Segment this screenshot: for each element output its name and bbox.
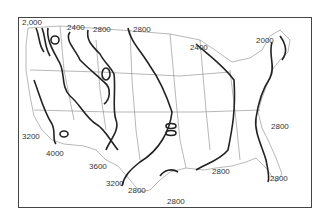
contour-label: 2000 (256, 37, 274, 45)
contour-label: 2800 (167, 198, 185, 206)
contour-label: 2,000 (22, 19, 42, 27)
us-contour-map (0, 0, 321, 220)
contour-label: 2800 (212, 168, 230, 176)
contour-label: 2800 (133, 26, 151, 34)
contour-label: 2800 (128, 187, 146, 195)
contour-label: 3600 (89, 163, 107, 171)
contour-label: 2400 (190, 44, 208, 52)
contour-lines (34, 28, 286, 186)
contour-label: 2400 (67, 24, 85, 32)
contour-label: 2800 (93, 26, 111, 34)
state-boundaries (26, 26, 290, 192)
contour-label: 3200 (106, 180, 124, 188)
contour-label: 4000 (46, 150, 64, 158)
contour-label: 2800 (270, 175, 288, 183)
contour-label: 3200 (22, 133, 40, 141)
contour-label: 2800 (271, 123, 289, 131)
